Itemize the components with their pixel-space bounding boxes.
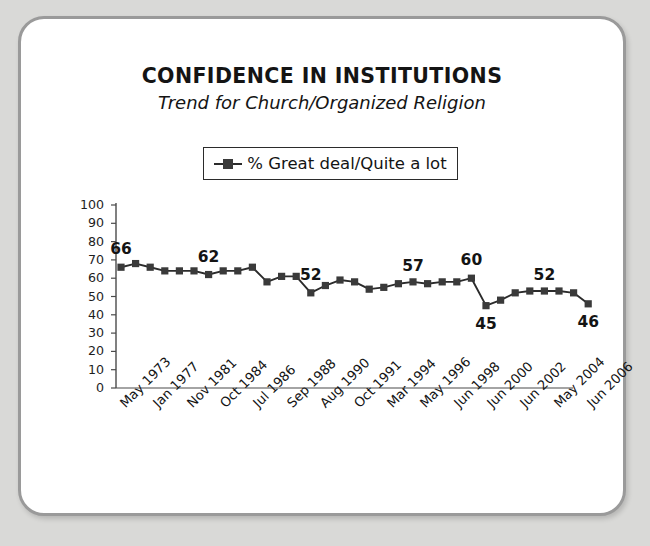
- data-point-marker: [482, 302, 489, 309]
- y-axis-tick-label: 100: [78, 197, 104, 212]
- data-point-marker: [161, 267, 168, 274]
- chart-card: CONFIDENCE IN INSTITUTIONS Trend for Chu…: [18, 16, 626, 516]
- data-point-marker: [234, 267, 241, 274]
- data-point-label: 52: [300, 266, 322, 284]
- data-point-marker: [117, 264, 124, 271]
- data-point-marker: [307, 289, 314, 296]
- data-point-marker: [249, 264, 256, 271]
- data-point-marker: [380, 284, 387, 291]
- y-axis-tick-label: 10: [78, 362, 104, 377]
- y-axis-tick-label: 0: [78, 380, 104, 395]
- data-point-label: 57: [402, 257, 424, 275]
- y-axis-tick-label: 80: [78, 234, 104, 249]
- data-point-marker: [541, 287, 548, 294]
- y-axis-tick-label: 50: [78, 289, 104, 304]
- y-axis-tick-label: 40: [78, 307, 104, 322]
- data-point-marker: [132, 260, 139, 267]
- data-point-marker: [366, 286, 373, 293]
- y-axis-tick-label: 70: [78, 252, 104, 267]
- y-axis-tick-label: 90: [78, 215, 104, 230]
- y-axis-tick-label: 20: [78, 343, 104, 358]
- data-point-marker: [263, 278, 270, 285]
- data-point-marker: [147, 264, 154, 271]
- data-point-marker: [424, 280, 431, 287]
- data-point-marker: [512, 289, 519, 296]
- data-point-marker: [585, 300, 592, 307]
- data-point-label: 60: [461, 251, 483, 269]
- data-point-marker: [220, 267, 227, 274]
- data-point-marker: [205, 271, 212, 278]
- data-point-marker: [336, 276, 343, 283]
- data-point-label: 52: [534, 266, 556, 284]
- data-point-label: 46: [577, 313, 599, 331]
- data-point-marker: [409, 278, 416, 285]
- data-point-label: 45: [475, 315, 497, 333]
- data-point-marker: [497, 297, 504, 304]
- data-point-marker: [453, 278, 460, 285]
- data-point-marker: [526, 287, 533, 294]
- data-point-marker: [322, 282, 329, 289]
- data-point-marker: [439, 278, 446, 285]
- data-point-marker: [468, 275, 475, 282]
- data-point-label: 66: [110, 240, 132, 258]
- data-point-marker: [555, 287, 562, 294]
- data-point-marker: [176, 267, 183, 274]
- data-point-marker: [293, 273, 300, 280]
- y-axis-tick-label: 60: [78, 270, 104, 285]
- data-point-marker: [351, 278, 358, 285]
- data-point-marker: [278, 273, 285, 280]
- data-point-marker: [190, 267, 197, 274]
- data-point-marker: [395, 280, 402, 287]
- data-point-marker: [570, 289, 577, 296]
- y-axis-tick-label: 30: [78, 325, 104, 340]
- data-point-label: 62: [198, 248, 220, 266]
- plot-area: 01020304050607080901006662525760455246Ma…: [21, 19, 629, 519]
